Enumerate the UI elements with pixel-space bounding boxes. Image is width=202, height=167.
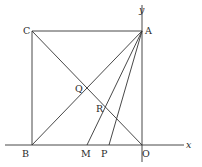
- point-label-R: R: [96, 103, 104, 114]
- segment-AM: [87, 31, 142, 145]
- point-label-B: B: [22, 148, 29, 159]
- point-label-M: M: [81, 148, 91, 159]
- point-label-O: O: [142, 148, 150, 159]
- point-label-C: C: [23, 25, 30, 36]
- y-axis-label: y: [138, 4, 145, 15]
- x-axis-label: x: [186, 139, 192, 150]
- point-label-A: A: [144, 25, 152, 36]
- point-label-Q: Q: [75, 83, 83, 94]
- geometry-diagram: y x A C B M P O Q R: [0, 0, 202, 167]
- point-label-P: P: [101, 148, 108, 159]
